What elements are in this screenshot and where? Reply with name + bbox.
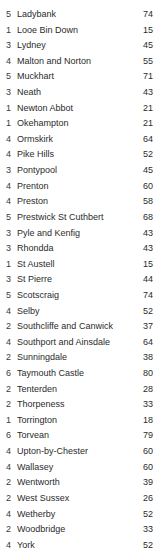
row-name-cell: Taymouth Castle [17,366,129,382]
row-index-cell: 4 [0,54,11,70]
row-value-cell: 52 [127,538,153,552]
row-value-cell: 43 [127,85,153,101]
row-name-cell: York [17,538,129,552]
row-name-cell: Pike Hills [17,147,129,163]
row-value-cell: 64 [127,132,153,148]
row-index-cell: 5 [0,7,11,23]
row-value-cell: 21 [127,101,153,117]
row-index-cell: 5 [0,288,11,304]
table-row: 4Selby52 [0,304,161,320]
row-value-cell: 64 [127,335,153,351]
table-row: 1Okehampton21 [0,116,161,132]
row-index-cell: 2 [0,397,11,413]
row-name-cell: Okehampton [17,116,129,132]
row-value-cell: 52 [127,147,153,163]
table-row: 3Lydney45 [0,38,161,54]
table-row: 4Malton and Norton55 [0,54,161,70]
row-index-cell: 2 [0,350,11,366]
row-value-cell: 55 [127,54,153,70]
row-value-cell: 18 [127,413,153,429]
table-row: 5Scotscraig74 [0,288,161,304]
table-row: 1Newton Abbot21 [0,101,161,117]
table-row: 3Pontypool45 [0,163,161,179]
row-name-cell: Tenterden [17,382,129,398]
row-index-cell: 1 [0,116,11,132]
row-value-cell: 44 [127,272,153,288]
row-name-cell: Pyle and Kenfig [17,226,129,242]
row-value-cell: 71 [127,69,153,85]
row-index-cell: 4 [0,147,11,163]
row-name-cell: Wentworth [17,475,129,491]
table-row: 4Ormskirk64 [0,132,161,148]
row-index-cell: 6 [0,428,11,444]
row-index-cell: 1 [0,23,11,39]
row-name-cell: Southport and Ainsdale [17,335,129,351]
row-name-cell: Ladybank [17,7,129,23]
table-row: 5Ladybank74 [0,7,161,23]
row-name-cell: Torrington [17,413,129,429]
row-name-cell: Sunningdale [17,350,129,366]
row-name-cell: Ormskirk [17,132,129,148]
row-value-cell: 26 [127,491,153,507]
table-row: 5Prestwick St Cuthbert68 [0,210,161,226]
row-name-cell: Upton-by-Chester [17,444,129,460]
table-row: 4York52 [0,538,161,552]
row-value-cell: 74 [127,7,153,23]
row-index-cell: 3 [0,226,11,242]
row-index-cell: 2 [0,491,11,507]
row-name-cell: Lydney [17,38,129,54]
row-index-cell: 6 [0,366,11,382]
row-index-cell: 3 [0,241,11,257]
row-index-cell: 4 [0,460,11,476]
row-value-cell: 68 [127,210,153,226]
table-row: 2Thorpeness33 [0,397,161,413]
row-index-cell: 1 [0,413,11,429]
row-index-cell: 3 [0,85,11,101]
row-index-cell: 2 [0,319,11,335]
table-row: 2Wentworth39 [0,475,161,491]
row-index-cell: 4 [0,179,11,195]
table-row: 4Wetherby52 [0,507,161,523]
row-index-cell: 3 [0,272,11,288]
row-name-cell: Torvean [17,428,129,444]
row-name-cell: Wallasey [17,460,129,476]
row-name-cell: West Sussex [17,491,129,507]
row-name-cell: Malton and Norton [17,54,129,70]
table-row: 5Muckhart71 [0,69,161,85]
row-value-cell: 79 [127,428,153,444]
row-value-cell: 74 [127,288,153,304]
row-name-cell: Rhondda [17,241,129,257]
table-row: 3Rhondda43 [0,241,161,257]
row-index-cell: 4 [0,444,11,460]
row-name-cell: Southcliffe and Canwick [17,319,129,335]
row-value-cell: 21 [127,116,153,132]
row-index-cell: 4 [0,507,11,523]
row-value-cell: 80 [127,366,153,382]
table-row: 3Neath43 [0,85,161,101]
table-row: 4Upton-by-Chester60 [0,444,161,460]
table-row: 2West Sussex26 [0,491,161,507]
row-value-cell: 15 [127,23,153,39]
row-name-cell: St Austell [17,257,129,273]
table-row: 2Southcliffe and Canwick37 [0,319,161,335]
row-name-cell: Selby [17,304,129,320]
row-index-cell: 2 [0,475,11,491]
table-row: 6Torvean79 [0,428,161,444]
row-value-cell: 33 [127,522,153,538]
row-index-cell: 4 [0,538,11,552]
table-row: 2Tenterden28 [0,382,161,398]
row-name-cell: Wetherby [17,507,129,523]
table-row: 4Pike Hills52 [0,147,161,163]
row-value-cell: 33 [127,397,153,413]
row-index-cell: 3 [0,163,11,179]
table-row: 6Taymouth Castle80 [0,366,161,382]
table-row: 4Wallasey60 [0,460,161,476]
table-row: 2Sunningdale38 [0,350,161,366]
row-name-cell: Pontypool [17,163,129,179]
row-value-cell: 60 [127,179,153,195]
row-index-cell: 4 [0,304,11,320]
row-name-cell: Prenton [17,179,129,195]
row-index-cell: 2 [0,522,11,538]
row-value-cell: 45 [127,163,153,179]
